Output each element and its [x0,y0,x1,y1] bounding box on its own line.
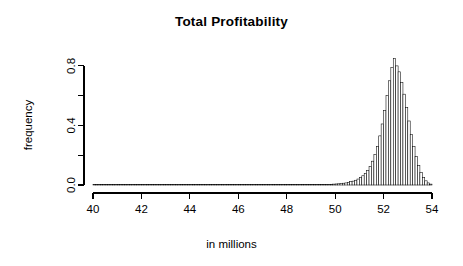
histogram-bar [410,134,412,185]
x-axis-tick-label: 42 [135,203,148,215]
histogram-bar [328,184,330,185]
histogram-bar [352,181,354,185]
histogram-bar [401,82,403,185]
histogram-bar [391,67,393,185]
histogram-bar [422,178,424,185]
x-axis-tick-label: 54 [426,203,439,215]
histogram-bar [345,183,347,185]
x-axis-tick-label: 48 [280,203,293,215]
histogram-bar [381,124,383,185]
histogram-bar [405,108,407,185]
histogram-bar [415,157,417,185]
y-axis-tick-label: 0.4 [65,117,77,134]
x-axis-title: in millions [206,238,257,250]
histogram-bar [430,184,432,185]
histogram-bar [398,72,400,185]
y-axis-ticks [78,66,84,185]
x-axis-tick-labels: 4042444648505254 [87,203,439,215]
histogram-bar [427,183,429,185]
histogram-bar [355,180,357,185]
histogram-bar [333,184,335,185]
histogram-bar [335,184,337,185]
histogram-bar [376,146,378,185]
x-axis-tick-label: 40 [87,203,100,215]
y-axis-tick-label: 0.8 [65,58,77,74]
x-axis-tick-label: 52 [377,203,390,215]
histogram-figure: Total Profitability 4042444648505254 0.0… [0,0,463,266]
histogram-bar [384,111,386,185]
histogram-bars [93,58,432,185]
y-axis-title: frequency [22,100,34,151]
histogram-bar [330,184,332,185]
x-axis-tick-label: 46 [232,203,245,215]
x-axis-tick-label: 44 [183,203,196,215]
y-axis-tick-label: 0.0 [65,177,77,193]
histogram-bar [393,58,395,185]
histogram-bar [342,183,344,185]
histogram-bar [347,182,349,185]
histogram-bar [403,94,405,185]
x-axis-ticks [93,193,432,199]
plot-area: 4042444648505254 0.00.40.8 in millions f… [0,0,463,266]
histogram-bar [417,166,419,185]
histogram-bar [371,161,373,185]
histogram-bar [374,154,376,185]
histogram-bar [396,66,398,185]
histogram-bar [379,136,381,185]
histogram-bar [367,170,369,185]
histogram-bar [369,166,371,185]
histogram-bar [413,146,415,185]
histogram-bar [364,173,366,185]
histogram-bar [420,172,422,185]
histogram-bar [362,176,364,185]
histogram-bar [388,81,390,185]
x-axis-tick-label: 50 [329,203,342,215]
histogram-bar [425,181,427,185]
y-axis-tick-labels: 0.00.40.8 [65,58,77,193]
histogram-bar [408,121,410,185]
histogram-bar [350,182,352,185]
histogram-bar [340,184,342,185]
histogram-bar [357,179,359,185]
histogram-bar [325,184,327,185]
histogram-bar [386,96,388,185]
histogram-bar [338,184,340,185]
histogram-bar [359,178,361,185]
